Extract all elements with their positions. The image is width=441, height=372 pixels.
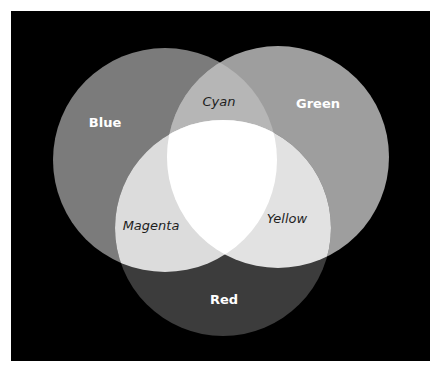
label-magenta: Magenta [123, 218, 180, 233]
venn-diagram [11, 11, 430, 361]
venn-diagram-panel: Blue Green Red Cyan Magenta Yellow [11, 11, 430, 361]
label-red: Red [210, 292, 238, 307]
label-blue: Blue [89, 115, 121, 130]
label-cyan: Cyan [203, 94, 236, 109]
label-green: Green [296, 96, 340, 111]
label-yellow: Yellow [267, 211, 307, 226]
